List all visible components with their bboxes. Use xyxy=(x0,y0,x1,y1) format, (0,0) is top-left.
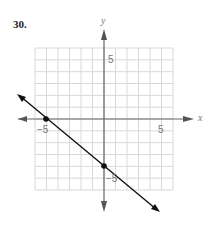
y-axis xyxy=(101,29,107,212)
y-axis-label: y xyxy=(101,15,105,26)
y-intercept-point xyxy=(101,163,107,169)
x-axis-label: x xyxy=(198,112,202,123)
y-tick-5: 5 xyxy=(108,54,114,65)
y-tick-neg5: −5 xyxy=(106,173,117,184)
coordinate-plane xyxy=(0,0,216,227)
x-intercept-point xyxy=(43,116,49,122)
x-tick-5: 5 xyxy=(158,124,164,135)
x-tick-neg5: −5 xyxy=(37,124,48,135)
